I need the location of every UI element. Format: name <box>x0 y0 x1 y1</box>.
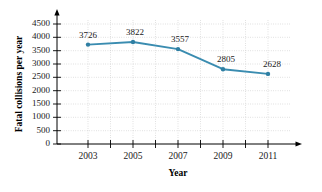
y-tick-label: 500 <box>37 125 51 135</box>
x-tick-label: 2005 <box>124 151 143 161</box>
data-point-marker <box>131 40 135 44</box>
data-point-label: 3557 <box>171 34 190 44</box>
y-axis-title: Fatal collisions per year <box>14 35 24 132</box>
data-point-marker <box>86 42 90 46</box>
y-tick-label: 3500 <box>32 45 51 55</box>
x-tick-label: 2007 <box>169 151 188 161</box>
x-tick-label: 2003 <box>79 151 98 161</box>
chart-canvas: 0 500 1000 1500 2000 2500 3000 3500 4000… <box>0 0 322 192</box>
x-axis-title: Year <box>169 168 189 178</box>
data-point-marker <box>266 72 270 76</box>
x-axis-arrow-icon <box>296 141 303 146</box>
y-tick-label: 3000 <box>32 58 51 68</box>
y-tick-label: 4000 <box>32 31 51 41</box>
data-point-label: 3726 <box>79 30 98 40</box>
line-chart: 0 500 1000 1500 2000 2500 3000 3500 4000… <box>0 0 322 192</box>
data-point-labels: 3726 3822 3557 2805 2628 <box>79 27 282 70</box>
series-line-fatal-collisions <box>88 42 268 74</box>
data-point-label: 2805 <box>217 54 236 64</box>
y-tick-label: 1000 <box>32 111 51 121</box>
data-point-label: 2628 <box>263 59 282 69</box>
y-axis <box>54 9 59 144</box>
x-axis <box>57 141 302 146</box>
x-tick-label: 2011 <box>259 151 278 161</box>
x-tick-label: 2009 <box>214 151 233 161</box>
data-point-marker <box>221 67 225 71</box>
y-tick-label: 1500 <box>32 98 51 108</box>
data-point-label: 3822 <box>126 27 144 37</box>
y-tick-label: 4500 <box>32 18 51 28</box>
y-tick-label: 2500 <box>32 71 51 81</box>
data-point-marker <box>176 47 180 51</box>
y-tick-labels: 0 500 1000 1500 2000 2500 3000 3500 4000… <box>32 18 51 148</box>
y-tick-label: 2000 <box>32 85 51 95</box>
y-tick-label: 0 <box>46 138 51 148</box>
y-axis-arrow-icon <box>54 9 59 16</box>
x-tick-labels: 2003 2005 2007 2009 2011 <box>79 151 278 161</box>
